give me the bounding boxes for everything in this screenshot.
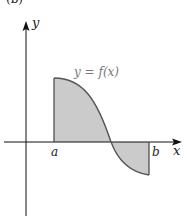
bound-b-label: b	[152, 145, 160, 159]
bound-a-label: a	[51, 145, 58, 159]
integral-area-diagram: y x a b y = f(x)	[0, 0, 187, 217]
x-axis-label: x	[173, 143, 181, 158]
negative-area-fill	[111, 142, 149, 175]
curve-label: y = f(x)	[73, 65, 119, 79]
y-axis-label: y	[31, 15, 40, 30]
